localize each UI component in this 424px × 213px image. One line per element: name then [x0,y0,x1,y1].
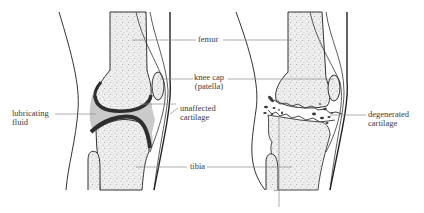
femur-bone-right [276,12,330,108]
label-degenerated-cartilage: degenerated cartilage [367,110,410,128]
label-lubricating-fluid: lubricating fluid [11,109,50,127]
patella-left [152,72,164,100]
leader-unaffected [170,108,178,114]
label-degenerated-line2: cartilage [368,119,409,128]
healthy-knee [59,12,170,190]
label-unaffected-line2: cartilage [180,113,216,122]
tibia-bone-left [96,119,149,190]
femur-bone-left [95,12,151,111]
label-knee-cap: knee cap (patella) [193,73,225,91]
knee-diagram: femur knee cap (patella) unaffected cart… [0,0,424,213]
label-lubricating-line2: fluid [12,118,49,127]
label-unaffected-cartilage: unaffected cartilage [179,104,217,122]
skin-outline-back-right [236,12,265,190]
label-tibia: tibia [189,162,206,171]
degenerated-knee [236,12,347,190]
skin-outline-back [59,12,78,190]
label-knee-cap-line2: (patella) [194,82,224,91]
label-femur: femur [197,35,219,44]
fibula-bone-right [266,154,278,190]
fibula-bone-left [88,151,100,190]
